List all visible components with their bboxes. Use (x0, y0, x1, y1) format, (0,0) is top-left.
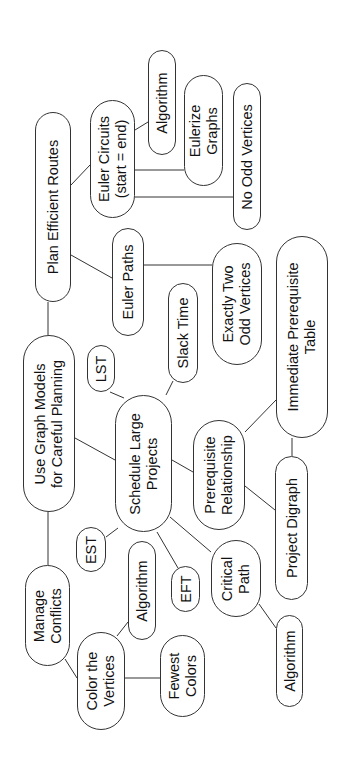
node-algorithm-critical-path: Algorithm (276, 615, 303, 707)
node-label: LST (93, 355, 110, 382)
node-label: Eulerize Graphs (187, 104, 221, 156)
connector-line (106, 528, 118, 537)
node-label: Euler Circuits (start = end) (96, 116, 130, 202)
node-color-the-vertices: Color the Vertices (77, 632, 125, 730)
connector-line (110, 392, 124, 398)
node-est: EST (76, 527, 106, 572)
node-prerequisite-relationship: Prerequisite Relationship (193, 420, 245, 530)
connector-line (71, 165, 90, 185)
connector-line (245, 486, 275, 510)
node-label: Algorithm (134, 560, 151, 621)
node-eft: EFT (171, 566, 200, 612)
node-algorithm-circuits: Algorithm (148, 50, 176, 155)
connector-line (166, 381, 173, 395)
node-label: Algorithm (154, 72, 171, 133)
node-lst: LST (87, 345, 115, 392)
node-label: Schedule Large Projects (127, 413, 161, 515)
node-label: Fewest Colors (166, 653, 200, 700)
connector-line (135, 122, 148, 130)
node-label: EST (83, 535, 100, 563)
node-label: Use Graph Models for Careful Planning (32, 359, 66, 487)
node-plan-efficient-routes: Plan Efficient Routes (35, 112, 71, 302)
node-label: EFT (177, 575, 194, 602)
node-label: Immediate Prerequisite Table (285, 262, 319, 411)
connector-line (65, 659, 77, 678)
node-label: Plan Efficient Routes (45, 140, 62, 274)
node-slack-time: Slack Time (168, 283, 198, 383)
connector-line (117, 622, 128, 636)
node-eulerize-graphs: Eulerize Graphs (184, 75, 223, 186)
node-fewest-colors: Fewest Colors (160, 635, 205, 717)
node-label: No Odd Vertices (239, 104, 256, 210)
node-no-odd-vertices: No Odd Vertices (233, 83, 261, 230)
node-label: Color the Vertices (84, 652, 118, 711)
node-immediate-prerequisite-table: Immediate Prerequisite Table (276, 236, 328, 438)
connector-line (71, 255, 112, 278)
connector-line (245, 400, 276, 432)
node-label: Euler Paths (120, 245, 137, 320)
connector-line (172, 460, 193, 472)
node-critical-path: Critical Path (211, 540, 261, 617)
node-euler-paths: Euler Paths (112, 228, 144, 336)
node-euler-circuits: Euler Circuits (start = end) (90, 100, 135, 218)
node-label: Critical Path (219, 556, 253, 600)
node-label: Project Digraph (283, 478, 300, 578)
node-label: Exactly Two Odd Vertices (220, 262, 254, 345)
connector-line (259, 604, 276, 628)
node-label: Algorithm (281, 630, 298, 691)
connector-line (75, 438, 115, 460)
node-project-digraph: Project Digraph (275, 456, 308, 600)
node-label: Manage Conflicts (31, 588, 65, 644)
node-label: Prerequisite Relationship (202, 435, 236, 515)
node-exactly-two-odd-vertices: Exactly Two Odd Vertices (212, 243, 262, 365)
node-schedule-large-projects: Schedule Large Projects (115, 395, 172, 532)
connector-line (157, 532, 178, 568)
node-algorithm-schedule: Algorithm (128, 541, 156, 640)
node-manage-conflicts: Manage Conflicts (25, 565, 70, 666)
node-root-graph-models: Use Graph Models for Careful Planning (23, 335, 75, 512)
node-label: Slack Time (175, 298, 192, 369)
